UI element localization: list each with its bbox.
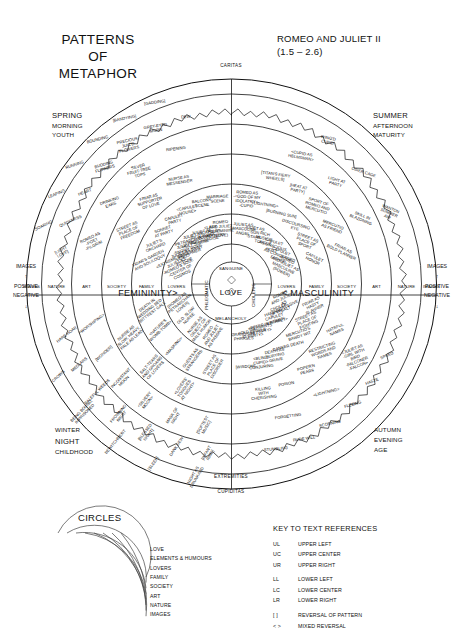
corner-winter-l3: CHILDHOOD (55, 448, 93, 455)
svg-text:AIR: AIR (383, 213, 391, 220)
segment-label: FROWNINGNIGHT (109, 403, 131, 426)
segment-label: BEWITCHMENT (104, 428, 128, 455)
segment-label: HARE HOAR (55, 325, 77, 344)
segment-label: <LOVERS'TONGUESAT NIGHT> (172, 375, 196, 401)
ring-axis-label: ART (372, 284, 381, 289)
svg-text:SCENE: SCENE (210, 198, 225, 204)
segment-label: [HEAT ATPARTY] (289, 182, 309, 195)
circles-legend-heading: CIRCLES (78, 512, 121, 523)
svg-text:RIPENING: RIPENING (166, 145, 186, 153)
segment-label: <WORSHIPING> (77, 312, 106, 335)
patterns-of-metaphor-diagram: PATTERNS OF METAPHOR ROMEO AND JULIET II… (0, 0, 463, 642)
segment-label: [BLESSEDNIGHT] (137, 422, 157, 444)
segment-label: <LIGHTNING> (251, 200, 279, 209)
svg-text:<MASKING>: <MASKING> (164, 335, 184, 356)
corner-autumn-l2: EVENING (374, 436, 403, 443)
key-legend-code: [ ] (273, 612, 278, 618)
humour-phlegmatic: PHLEGMATIC (204, 280, 209, 310)
segment-label: QUICKNESS (58, 214, 82, 229)
svg-text:SCORNING: SCORNING (319, 419, 342, 429)
work-scenes-text: (1.5 – 2.6) (277, 46, 323, 57)
segment-label: GUESTS ASSTRANGERS (181, 346, 204, 372)
corner-winter-l2: NIGHT (55, 437, 80, 446)
edge-left-down-arrow: ↓ (25, 303, 28, 309)
segment-label: [INFANTRIND] (200, 444, 216, 463)
segment-label: <NATURE'SWOMB-TOMB> (145, 315, 173, 342)
segment-label: PRECIOUSJUIC'DFLOWERS (116, 136, 140, 154)
page-title: PATTERNS OF METAPHOR (59, 32, 138, 81)
segment-label: [SOFTESTMUSIC] (195, 414, 214, 436)
segment-label: BUDDINGFLOWERS (93, 159, 115, 174)
svg-text:FLEEING: FLEEING (344, 399, 362, 409)
segment-label: SCORNING (319, 419, 342, 429)
segment-label: FRIAR ASBOLD PLANNER (326, 239, 359, 261)
center-love-label: LOVE (220, 288, 243, 297)
segment-label: RESTRICTINGWORDS ANDNAMES (308, 340, 339, 362)
segment-label: FRIAR ASSUPPORTEROF LOVE (136, 191, 164, 211)
humour-choleric: CHOLERIC (251, 283, 256, 307)
key-legend-desc: UPPER LEFT (298, 541, 332, 547)
svg-text:SPEED: SPEED (379, 350, 394, 360)
key-legend-code: LR (273, 597, 280, 603)
segment-label: ROMEO AS-POET-PILGRIM (79, 230, 105, 252)
corner-autumn: AUTUMN EVENING AGE (374, 426, 403, 453)
svg-text:<LIGHTNING>: <LIGHTNING> (251, 200, 279, 209)
segment-label: SPORT OFROMEO ANDMERCUTIO (303, 195, 331, 215)
svg-text:DEW: DEW (181, 114, 191, 120)
segment-label: MERCUTIOAS FRIEND (321, 218, 345, 235)
segment-label: [GADDING] (144, 98, 166, 106)
circles-legend-item: SOCIETY (150, 583, 174, 589)
segment-label: [BURNING SUN] (266, 208, 297, 220)
segment-label: FLEEING (344, 399, 362, 409)
segment-label: CROWS (51, 369, 66, 383)
ring-axis-label: IMAGES (423, 284, 440, 289)
circles-legend-item: ART (150, 593, 160, 599)
svg-text:HARE HOAR: HARE HOAR (55, 325, 77, 344)
ring-axis-label: IMAGES (23, 284, 40, 289)
key-legend-desc: MIXED REVERSAL (298, 623, 346, 629)
circles-legend-item: ELEMENTS & HUMOURS (150, 555, 212, 561)
segment-label: POISON (278, 380, 295, 388)
svg-text:[WONDER]: [WONDER] (94, 344, 113, 362)
svg-text:MORN: MORN (149, 127, 162, 134)
edge-left-images: IMAGES (16, 263, 37, 269)
segment-label: NURSE ASSLOW, HEAVY,PALE AS LEAD (113, 322, 143, 351)
segment-label: DRINKINGEARS (99, 195, 121, 211)
svg-text:CHERISHING: CHERISHING (251, 394, 277, 402)
ring-axis-label: ART (82, 284, 91, 289)
key-legend-desc: UPPER RIGHT (298, 562, 336, 568)
work-title: ROMEO AND JULIET II (1.5 – 2.6) (277, 33, 381, 57)
legend-arc (112, 533, 146, 611)
segment-label: SKILL INBLAZONING (349, 209, 374, 227)
key-legend-desc: LOWER CENTER (298, 587, 342, 593)
title-line-2: OF (88, 49, 108, 64)
segment-label: SILVERFRUIT-TREETOPS (126, 161, 153, 180)
key-legend-desc: REVERSAL OF PATTERN (298, 612, 362, 618)
svg-text:FORGETTING: FORGETTING (274, 412, 301, 421)
segment-label: MASK OFNIGHT (164, 406, 183, 427)
corner-summer-l1: SUMMER (373, 111, 408, 120)
corner-summer: SUMMER AFTERNOON MATURITY (373, 111, 413, 138)
caritas-label: CARITAS (220, 63, 242, 68)
segment-label: DISCOURSINGEYE (280, 217, 310, 234)
segment-label: [SLEEP] (147, 456, 160, 472)
svg-text:(LOVE): (LOVE) (214, 232, 229, 238)
title-line-3: METAPHOR (59, 66, 138, 81)
work-title-text: ROMEO AND JULIET II (277, 33, 381, 44)
edge-right-down-arrow: ↓ (436, 303, 439, 309)
segment-label: STREET ASPLACE OFFREEDOM (115, 220, 141, 241)
key-legend: KEY TO TEXT REFERENCES ULUPPER LEFTUCUPP… (273, 524, 377, 629)
circles-legend-item: LOVE (150, 546, 164, 552)
segment-label: GRANDSIREPHRASES (231, 330, 256, 341)
femininity-axis-label: FEMININITY> (118, 288, 178, 298)
ring-axis-label: NATURE (398, 284, 416, 289)
segment-label: INCONSTANTMOON (110, 366, 135, 392)
svg-text:[BURNING SUN]: [BURNING SUN] (266, 208, 297, 220)
key-legend-code: LL (273, 576, 279, 582)
corner-winter-l1: WINTER (55, 426, 80, 433)
svg-text:WHEELS]: WHEELS] (266, 175, 285, 182)
corner-spring-l2: MORNING (52, 122, 83, 129)
extremities-label: EXTREMITIES (214, 474, 248, 479)
svg-text:HEART: HEART (77, 187, 92, 197)
segment-label: <CUPID ASHELMSMAN> (288, 148, 315, 162)
